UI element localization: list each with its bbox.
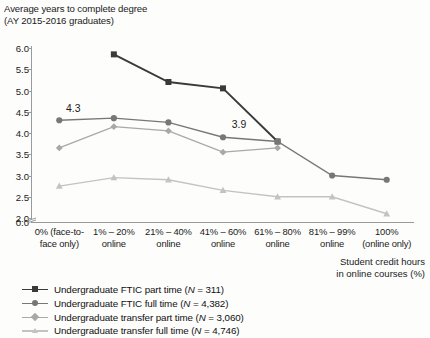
x-tick-label-6: 100% (online only) [352, 226, 421, 249]
series-line [59, 178, 386, 214]
y-tick-mark [28, 176, 32, 177]
y-tick-4-0: 4.0 [3, 128, 29, 139]
point-label-1: 3.9 [232, 119, 246, 130]
series-0 [111, 51, 281, 144]
y-tick-4-5: 4.5 [3, 106, 29, 117]
y-tick-mark [28, 197, 32, 198]
legend-item-2[interactable]: Undergraduate transfer part time (N = 3,… [22, 311, 322, 324]
legend-marker-triangle-icon [22, 325, 48, 337]
y-tick-mark [28, 133, 32, 134]
x-axis-caption: Student credit hours in online courses (… [336, 256, 425, 280]
y-tick-3-5: 3.5 [3, 149, 29, 160]
y-tick-2-5: 2.5 [3, 191, 29, 202]
data-point [274, 138, 280, 144]
data-point [56, 117, 62, 123]
data-point [220, 149, 227, 156]
legend-item-1[interactable]: Undergraduate FTIC full time (N = 4,382) [22, 297, 322, 310]
data-point [274, 144, 281, 151]
y-tick-mark [28, 218, 32, 219]
y-tick-mark [28, 154, 32, 155]
data-point [111, 51, 117, 57]
legend-label-3: Undergraduate transfer full time (N = 4,… [54, 325, 239, 336]
chart-legend: Undergraduate FTIC part time (N = 311)Un… [22, 283, 322, 338]
legend-marker-square-icon [22, 284, 48, 296]
y-tick-mark [28, 48, 32, 49]
data-point [56, 144, 63, 151]
data-point [111, 115, 117, 121]
point-label-0: 4.3 [66, 103, 80, 114]
y-tick-5-5: 5.5 [3, 64, 29, 75]
y-tick-mark [28, 91, 32, 92]
chart-container: Average years to complete degree (AY 201… [0, 0, 430, 338]
plot-area [32, 45, 414, 222]
series-3 [56, 174, 390, 216]
legend-marker-circle-icon [22, 297, 48, 309]
data-point [220, 85, 226, 91]
y-tick-3-0: 3.0 [3, 170, 29, 181]
data-point [110, 123, 117, 130]
data-point [220, 134, 226, 140]
legend-label-0: Undergraduate FTIC part time (N = 311) [54, 284, 224, 295]
x-axis-line [31, 222, 414, 223]
y-tick-mark [28, 69, 32, 70]
y-tick-6-0: 6.0 [3, 43, 29, 54]
data-point [165, 119, 171, 125]
y-tick-5-0: 5.0 [3, 85, 29, 96]
data-point [329, 172, 335, 178]
legend-label-1: Undergraduate FTIC full time (N = 4,382) [54, 298, 228, 309]
legend-item-0[interactable]: Undergraduate FTIC part time (N = 311) [22, 283, 322, 296]
data-point [165, 127, 172, 134]
y-tick-mark [28, 112, 32, 113]
legend-marker-diamond-icon [22, 311, 48, 323]
legend-label-2: Undergraduate transfer part time (N = 3,… [54, 312, 244, 323]
legend-item-3[interactable]: Undergraduate transfer full time (N = 4,… [22, 324, 322, 337]
data-point [384, 177, 390, 183]
data-point [165, 79, 171, 85]
